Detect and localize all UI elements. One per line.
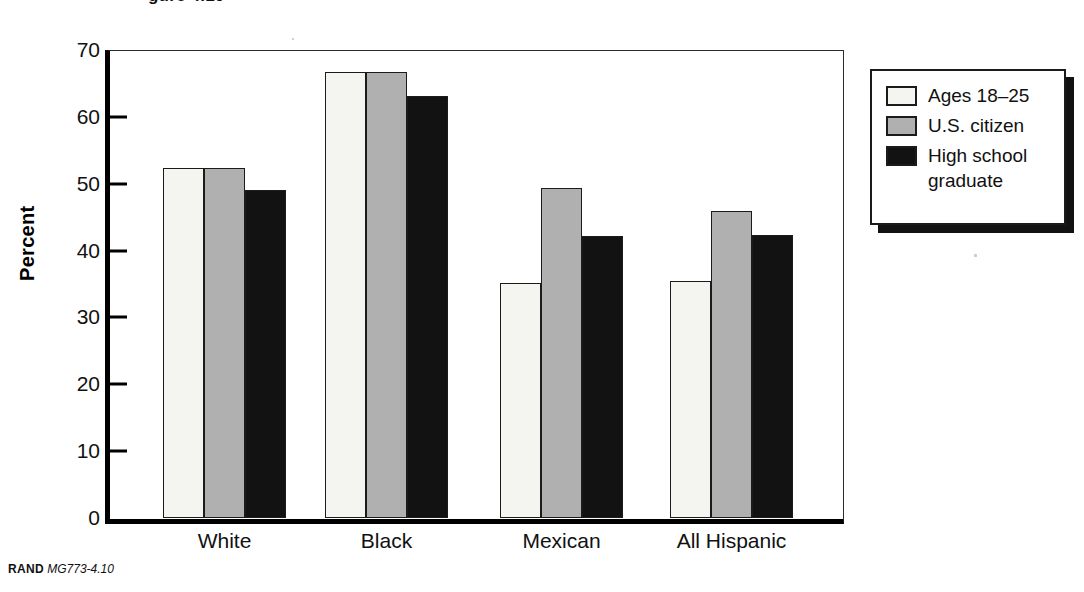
bar xyxy=(245,190,286,518)
footer-source: RAND xyxy=(8,562,44,576)
bar xyxy=(711,211,752,518)
bar xyxy=(582,236,623,518)
legend-label: High school graduate xyxy=(928,143,1064,193)
legend-item: U.S. citizen xyxy=(886,113,1064,138)
legend-item: Ages 18–25 xyxy=(886,83,1064,108)
legend-item: High school graduate xyxy=(886,143,1064,193)
y-tick-label: 70 xyxy=(77,38,100,62)
y-tick-label: 10 xyxy=(77,439,100,463)
bar xyxy=(325,72,366,518)
x-tick-label: Black xyxy=(361,529,412,553)
y-tick-label: 30 xyxy=(77,305,100,329)
y-tick-label: 40 xyxy=(77,239,100,263)
bar xyxy=(204,168,245,518)
legend-swatch xyxy=(886,146,917,166)
bar xyxy=(752,235,793,518)
bar xyxy=(163,168,204,518)
bars-layer xyxy=(110,50,838,518)
bar xyxy=(407,96,448,518)
legend: Ages 18–25U.S. citizenHigh school gradua… xyxy=(870,69,1066,225)
bar xyxy=(541,188,582,518)
y-tick-label: 50 xyxy=(77,172,100,196)
bar xyxy=(670,281,711,518)
legend-swatch xyxy=(886,86,917,106)
bar xyxy=(366,72,407,518)
legend-swatch xyxy=(886,116,917,136)
y-tick-label: 0 xyxy=(88,506,100,530)
figure-footer: RAND MG773-4.10 xyxy=(8,562,114,576)
x-tick-label: All Hispanic xyxy=(677,529,787,553)
y-tick-label: 60 xyxy=(77,105,100,129)
bar xyxy=(500,283,541,518)
x-tick-label: White xyxy=(198,529,252,553)
y-tick-label: 20 xyxy=(77,372,100,396)
x-tick-label: Mexican xyxy=(522,529,600,553)
legend-label: Ages 18–25 xyxy=(928,83,1029,108)
legend-label: U.S. citizen xyxy=(928,113,1024,138)
figure-container: gure 4.10 Percent 010203040506070 WhiteB… xyxy=(0,0,1084,592)
footer-code: MG773-4.10 xyxy=(47,562,114,576)
